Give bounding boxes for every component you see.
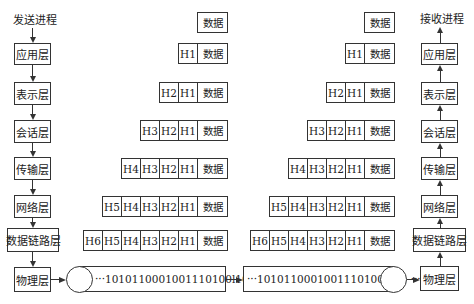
header-cell: H1 bbox=[179, 159, 198, 178]
header-cell: H2 bbox=[160, 121, 179, 140]
header-cell: H3 bbox=[308, 197, 327, 216]
header-cell: H3 bbox=[308, 159, 327, 178]
sender-transport-layer: 传输层 bbox=[14, 157, 51, 180]
receiver-presentation-layer: 表示层 bbox=[421, 82, 458, 105]
sender-presentation-layer: 表示层 bbox=[14, 82, 51, 105]
data-cell: 数据 bbox=[365, 231, 394, 250]
arrow-line bbox=[32, 180, 33, 189]
header-cell: H5 bbox=[103, 197, 122, 216]
right-bitstream-medium: ···1010110001001110100l101 ··· bbox=[243, 266, 394, 292]
header-cell: H1 bbox=[346, 121, 365, 140]
left-packet-row-5: H5 H4 H3 H2 H1 数据 bbox=[102, 196, 228, 217]
data-cell: 数据 bbox=[198, 159, 227, 178]
receiver-network-layer: 网络层 bbox=[421, 195, 458, 218]
header-cell: H1 bbox=[179, 121, 198, 140]
header-cell: H4 bbox=[289, 197, 308, 216]
header-cell: H5 bbox=[270, 197, 289, 216]
right-packet-row-0: 数据 bbox=[364, 12, 395, 33]
right-packet-row-6: H6 H5 H4 H3 H2 H1 数据 bbox=[250, 230, 395, 251]
left-packet-row-3: H3 H2 H1 数据 bbox=[140, 120, 228, 141]
data-cell: 数据 bbox=[198, 121, 227, 140]
arrow-line bbox=[32, 105, 33, 114]
receiver-process-label: 接收进程 bbox=[420, 14, 464, 26]
data-cell: 数据 bbox=[365, 44, 394, 63]
receiver-application-layer: 应用层 bbox=[421, 43, 458, 65]
header-cell: H2 bbox=[160, 231, 179, 250]
data-cell: 数据 bbox=[365, 197, 394, 216]
header-cell: H4 bbox=[289, 159, 308, 178]
arrow-line bbox=[440, 258, 441, 266]
header-cell: H1 bbox=[179, 231, 198, 250]
arrow-right-icon bbox=[413, 277, 420, 283]
header-cell: H3 bbox=[308, 231, 327, 250]
left-packet-row-2: H2 H1 数据 bbox=[159, 82, 228, 103]
receiver-session-layer: 会话层 bbox=[421, 120, 458, 143]
header-cell: H3 bbox=[141, 159, 160, 178]
header-cell: H3 bbox=[141, 121, 160, 140]
header-cell: H1 bbox=[346, 44, 365, 63]
header-cell: H1 bbox=[346, 231, 365, 250]
header-cell: H2 bbox=[160, 83, 179, 102]
arrow-line bbox=[32, 252, 33, 261]
header-cell: H3 bbox=[308, 121, 327, 140]
header-cell: H5 bbox=[270, 231, 289, 250]
receiver-physical-layer: 物理层 bbox=[420, 266, 459, 291]
left-medium-end-circle bbox=[66, 266, 93, 293]
sender-datalink-layer: 数据链路层 bbox=[7, 228, 59, 252]
right-packet-row-5: H5 H4 H3 H2 H1 数据 bbox=[269, 196, 395, 217]
arrow-line bbox=[440, 186, 441, 195]
left-packet-row-0: 数据 bbox=[197, 12, 228, 33]
sender-physical-layer: 物理层 bbox=[14, 267, 51, 292]
header-cell: H3 bbox=[141, 231, 160, 250]
left-packet-row-6: H6 H5 H4 H3 H2 H1 数据 bbox=[83, 230, 228, 251]
arrow-line bbox=[440, 111, 441, 120]
arrow-line bbox=[32, 28, 33, 37]
sender-network-layer: 网络层 bbox=[14, 195, 51, 218]
header-cell: H1 bbox=[346, 197, 365, 216]
header-cell: H6 bbox=[251, 231, 270, 250]
right-packet-row-4: H4 H3 H2 H1 数据 bbox=[288, 158, 395, 179]
right-packet-row-3: H3 H2 H1 数据 bbox=[307, 120, 395, 141]
header-cell: H4 bbox=[122, 159, 141, 178]
header-cell: H2 bbox=[327, 121, 346, 140]
data-cell: 数据 bbox=[198, 197, 227, 216]
data-cell: 数据 bbox=[198, 83, 227, 102]
sender-application-layer: 应用层 bbox=[14, 43, 51, 65]
arrow-line bbox=[440, 149, 441, 157]
data-cell: 数据 bbox=[198, 231, 227, 250]
header-cell: H1 bbox=[179, 83, 198, 102]
header-cell: H2 bbox=[327, 159, 346, 178]
data-cell: 数据 bbox=[365, 159, 394, 178]
arrow-right-icon bbox=[59, 277, 66, 283]
header-cell: H1 bbox=[346, 83, 365, 102]
header-cell: H2 bbox=[327, 231, 346, 250]
arrow-line bbox=[440, 71, 441, 82]
arrow-line bbox=[51, 279, 59, 280]
data-cell: 数据 bbox=[198, 13, 227, 32]
header-cell: H4 bbox=[122, 231, 141, 250]
header-cell: H4 bbox=[122, 197, 141, 216]
arrow-right-icon bbox=[236, 277, 243, 283]
header-cell: H1 bbox=[346, 159, 365, 178]
header-cell: H1 bbox=[179, 197, 198, 216]
data-cell: 数据 bbox=[198, 44, 227, 63]
header-cell: H2 bbox=[160, 159, 179, 178]
arrow-line bbox=[226, 279, 236, 280]
left-packet-row-1: H1 数据 bbox=[178, 43, 228, 64]
sender-process-label: 发送进程 bbox=[13, 15, 57, 27]
header-cell: H2 bbox=[160, 197, 179, 216]
header-cell: H4 bbox=[289, 231, 308, 250]
header-cell: H2 bbox=[327, 197, 346, 216]
right-packet-row-1: H1 数据 bbox=[345, 43, 395, 64]
left-bitstream-medium: ···1010110001001110100l101 ··· bbox=[79, 266, 226, 292]
header-cell: H5 bbox=[103, 231, 122, 250]
header-cell: H3 bbox=[141, 197, 160, 216]
data-cell: 数据 bbox=[365, 13, 394, 32]
data-cell: 数据 bbox=[365, 121, 394, 140]
left-packet-row-4: H4 H3 H2 H1 数据 bbox=[121, 158, 228, 179]
receiver-transport-layer: 传输层 bbox=[421, 157, 458, 180]
header-cell: H1 bbox=[179, 44, 198, 63]
arrow-line bbox=[440, 33, 441, 43]
receiver-datalink-layer: 数据链路层 bbox=[413, 228, 466, 252]
arrow-line bbox=[32, 65, 33, 76]
